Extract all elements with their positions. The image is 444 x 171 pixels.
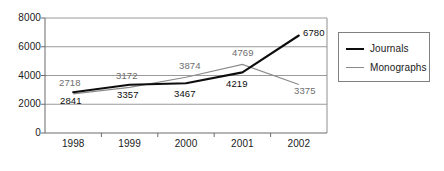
legend-item-journals: Journals (339, 39, 429, 58)
legend-label-monographs: Monographs (370, 62, 427, 73)
legend-label-journals: Journals (370, 43, 409, 54)
y-tick-label-0: 0 (3, 128, 41, 138)
data-label-journals-1998: 2841 (60, 96, 82, 106)
data-label-monographs-2002: 3375 (294, 86, 316, 96)
data-label-journals-1999: 3357 (117, 90, 139, 100)
legend-line-icon-journals (346, 48, 364, 50)
line-chart: 8000 6000 4000 2000 0 1998 1999 2000 200… (0, 0, 336, 171)
data-label-monographs-2001: 4769 (232, 48, 254, 58)
data-label-monographs-1999: 3172 (116, 71, 138, 81)
x-tick-label-1999: 1999 (101, 138, 157, 154)
data-label-journals-2001: 4219 (226, 79, 248, 89)
y-tick-label-4000: 4000 (3, 71, 41, 81)
x-axis-labels: 1998 1999 2000 2001 2002 (45, 138, 327, 154)
data-label-journals-2000: 3467 (174, 89, 196, 99)
y-tick-label-8000: 8000 (3, 13, 41, 23)
legend-item-monographs: Monographs (339, 58, 429, 77)
y-tick-label-6000: 6000 (3, 42, 41, 52)
chart-legend: Journals Monographs (338, 32, 430, 82)
x-tick-label-2001: 2001 (214, 138, 270, 154)
x-tick-label-2000: 2000 (158, 138, 214, 154)
x-tick-label-1998: 1998 (45, 138, 101, 154)
y-tick-label-2000: 2000 (3, 99, 41, 109)
data-label-monographs-2000: 3874 (179, 61, 201, 71)
chart-page: 8000 6000 4000 2000 0 1998 1999 2000 200… (0, 0, 444, 171)
y-axis-labels: 8000 6000 4000 2000 0 (0, 0, 41, 171)
data-label-journals-2002: 6780 (303, 28, 325, 38)
x-tick-label-2002: 2002 (271, 138, 327, 154)
data-label-monographs-1998: 2718 (59, 78, 81, 88)
legend-line-icon-monographs (346, 67, 364, 68)
